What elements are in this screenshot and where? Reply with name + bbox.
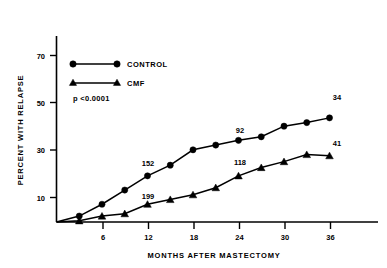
annotation-cmf-12: 199 (142, 192, 155, 201)
x-tick-label-18: 18 (190, 233, 198, 242)
x-axis-title: MONTHS AFTER MASTECTOMY (148, 251, 281, 260)
annotation-control-12: 152 (142, 159, 155, 168)
y-tick-label-50: 50 (37, 99, 45, 108)
chart-svg: 70 50 30 10 6 12 18 24 30 36 PERCENT WIT… (0, 0, 387, 268)
annotation-cmf-36: 41 (333, 139, 341, 148)
x-tick-label-36: 36 (326, 233, 334, 242)
legend-label-cmf: CMF (127, 79, 145, 88)
legend-marker-control-left (70, 61, 76, 67)
relapse-chart: 70 50 30 10 6 12 18 24 30 36 PERCENT WIT… (0, 0, 387, 268)
datapoint-control-24 (235, 137, 241, 143)
x-tick-label-12: 12 (144, 233, 152, 242)
x-tick-label-30: 30 (281, 233, 289, 242)
datapoint-control-18 (190, 147, 196, 153)
y-tick-label-70: 70 (37, 52, 45, 61)
datapoint-control-33 (304, 120, 310, 126)
datapoint-control-27 (258, 134, 264, 140)
legend-label-control: CONTROL (127, 60, 168, 69)
x-tick-label-24: 24 (235, 233, 244, 242)
y-axis-title: PERCENT WITH RELAPSE (16, 75, 25, 186)
legend-marker-control-right (114, 61, 120, 67)
datapoint-control-15 (167, 162, 173, 168)
y-tick-label-10: 10 (37, 194, 45, 203)
annotation-control-24: 92 (236, 126, 244, 135)
annotation-control-36: 34 (333, 93, 342, 102)
datapoint-control-21 (213, 142, 219, 148)
y-tick-label-30: 30 (37, 146, 45, 155)
x-tick-label-6: 6 (101, 233, 105, 242)
datapoint-control-9 (122, 187, 128, 193)
datapoint-control-30 (281, 123, 287, 129)
pvalue-label: p <0.0001 (73, 94, 110, 103)
datapoint-control-6 (99, 201, 105, 207)
datapoint-control-36 (326, 115, 332, 121)
annotation-cmf-24: 118 (234, 158, 246, 167)
datapoint-control-12 (144, 173, 150, 179)
